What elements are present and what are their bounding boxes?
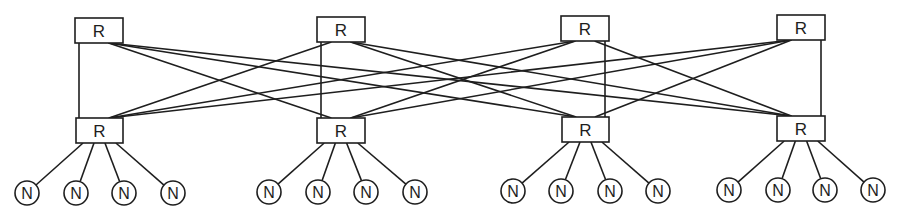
- end-node-3-4[interactable]: N: [646, 179, 670, 203]
- router-label: R: [93, 22, 105, 41]
- end-node-1-4[interactable]: N: [161, 181, 185, 205]
- access-link: [347, 143, 362, 181]
- router-label: R: [335, 21, 347, 40]
- end-node-4-3[interactable]: N: [813, 178, 837, 202]
- top-router-3[interactable]: R: [561, 16, 609, 41]
- access-link: [782, 141, 795, 179]
- end-node-3-3[interactable]: N: [598, 179, 622, 203]
- node-access-links: [36, 141, 864, 185]
- access-link: [105, 143, 120, 182]
- end-node-2-2[interactable]: N: [306, 180, 330, 204]
- node-label: N: [867, 182, 879, 199]
- end-node-4-2[interactable]: N: [766, 178, 790, 202]
- access-link: [358, 143, 406, 184]
- access-link: [116, 143, 164, 185]
- access-link: [322, 143, 335, 181]
- bottom-router-2[interactable]: R: [317, 118, 365, 143]
- end-node-2-1[interactable]: N: [257, 180, 281, 204]
- router-label: R: [93, 122, 105, 141]
- end-node-2-4[interactable]: N: [403, 180, 427, 204]
- link-T4-B2: [351, 40, 792, 118]
- access-link: [738, 141, 784, 182]
- node-label: N: [555, 183, 567, 200]
- access-link: [36, 143, 83, 185]
- end-node-2-3[interactable]: N: [354, 180, 378, 204]
- node-label: N: [507, 183, 519, 200]
- access-link: [565, 142, 580, 180]
- link-T4-B1: [109, 40, 792, 118]
- node-label: N: [21, 185, 33, 202]
- node-label: N: [360, 184, 372, 201]
- router-interconnect-links: [79, 40, 821, 118]
- node-label: N: [604, 183, 616, 200]
- node-label: N: [652, 183, 664, 200]
- node-label: N: [409, 184, 421, 201]
- end-node-4-1[interactable]: N: [717, 178, 741, 202]
- end-node-3-2[interactable]: N: [549, 179, 573, 203]
- end-node-1-1[interactable]: N: [15, 181, 39, 205]
- access-link: [522, 142, 569, 183]
- router-label: R: [579, 121, 591, 140]
- access-link: [591, 142, 606, 180]
- top-router-2[interactable]: R: [317, 17, 365, 42]
- bottom-router-3[interactable]: R: [562, 117, 609, 142]
- node-label: N: [167, 185, 179, 202]
- node-label: N: [723, 182, 735, 199]
- access-link: [278, 143, 324, 184]
- access-link: [818, 141, 864, 182]
- node-label: N: [263, 184, 275, 201]
- node-label: N: [772, 182, 784, 199]
- access-link: [80, 143, 94, 182]
- node-label: N: [312, 184, 324, 201]
- end-nodes: NNNNNNNNNNNNNNNN: [15, 178, 885, 205]
- end-node-1-2[interactable]: N: [64, 181, 88, 205]
- top-router-1[interactable]: R: [75, 18, 123, 43]
- node-label: N: [118, 185, 130, 202]
- node-label: N: [819, 182, 831, 199]
- network-diagram: RRRR RRRR NNNNNNNNNNNNNNNN: [0, 0, 910, 223]
- bottom-router-4[interactable]: R: [777, 116, 825, 141]
- end-node-4-4[interactable]: N: [861, 178, 885, 202]
- router-label: R: [335, 122, 347, 141]
- end-node-1-3[interactable]: N: [112, 181, 136, 205]
- node-label: N: [70, 185, 82, 202]
- bottom-router-1[interactable]: R: [76, 118, 123, 143]
- access-link: [602, 142, 649, 183]
- top-router-4[interactable]: R: [777, 15, 825, 40]
- top-router-tier: RRRR: [75, 15, 825, 43]
- access-link: [807, 141, 821, 179]
- end-node-3-1[interactable]: N: [501, 179, 525, 203]
- router-label: R: [795, 19, 807, 38]
- router-label: R: [579, 20, 591, 39]
- bottom-router-tier: RRRR: [76, 116, 825, 143]
- router-label: R: [795, 120, 807, 139]
